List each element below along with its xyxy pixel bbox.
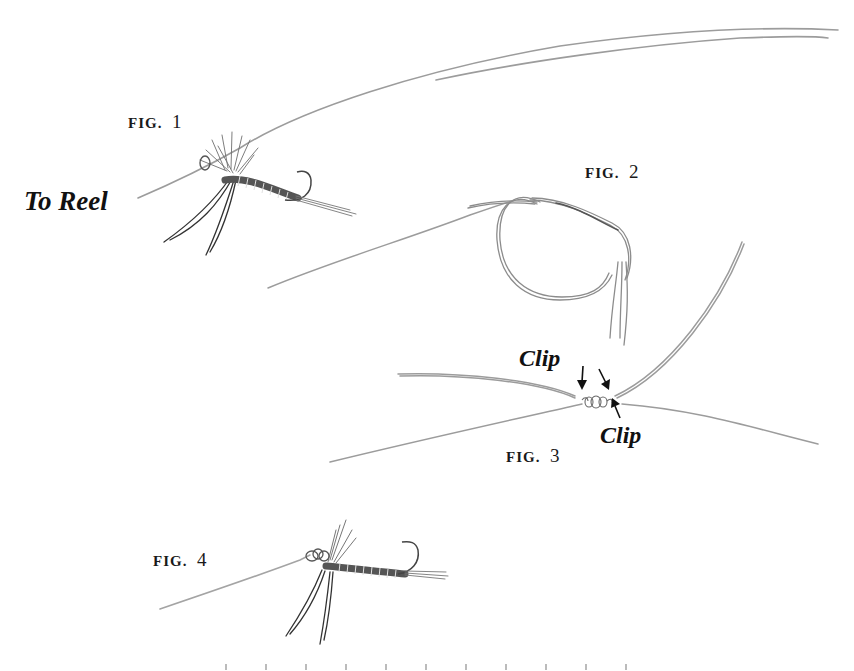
arrow-down-icon bbox=[577, 366, 587, 390]
arrow-up-left-icon bbox=[611, 398, 620, 418]
illustration-drawing bbox=[0, 0, 854, 671]
fig4-label-text: FIG. bbox=[153, 553, 187, 569]
clip-label-upper: Clip bbox=[519, 345, 560, 372]
fig4-label: FIG. 4 bbox=[153, 549, 207, 571]
fig3-label-text: FIG. bbox=[506, 449, 540, 465]
fig1-leader-line bbox=[138, 29, 838, 198]
fig1-number: 1 bbox=[172, 111, 183, 132]
fig2-label: FIG. 2 bbox=[585, 161, 639, 183]
clip-label-lower: Clip bbox=[600, 422, 641, 449]
fig1-label-text: FIG. bbox=[128, 115, 162, 131]
fig2-label-text: FIG. bbox=[585, 165, 619, 181]
knot-illustration: FIG. 1 To Reel FIG. 2 Clip Clip FIG. 3 F… bbox=[0, 0, 854, 671]
fig3-number: 3 bbox=[550, 445, 561, 466]
fig3-label: FIG. 3 bbox=[506, 445, 560, 467]
fig2-number: 2 bbox=[629, 161, 640, 182]
fig3-knot-coil bbox=[582, 396, 612, 408]
fig1-dry-fly bbox=[164, 132, 356, 255]
to-reel-label: To Reel bbox=[24, 186, 108, 217]
cropped-caption-text bbox=[225, 664, 675, 671]
fig1-label: FIG. 1 bbox=[128, 111, 182, 133]
fig2-incoming-line bbox=[268, 200, 515, 288]
fig3-tightened-knot bbox=[330, 242, 818, 462]
fig4-number: 4 bbox=[197, 549, 208, 570]
arrow-down-right-icon bbox=[599, 369, 610, 390]
fig2-loop-knot bbox=[468, 197, 631, 345]
fig4-finished-fly bbox=[286, 520, 448, 644]
